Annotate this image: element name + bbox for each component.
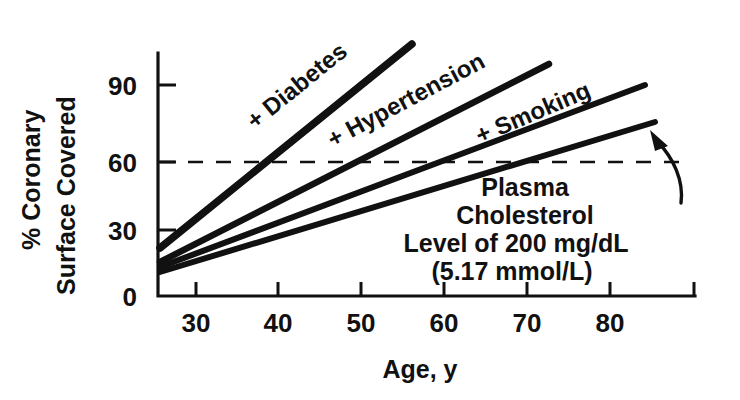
annotation-line-3: Level of 200 mg/dL bbox=[403, 229, 628, 257]
y-axis-title-line1: % Coronary bbox=[17, 110, 45, 250]
annotation-line-2: Cholesterol bbox=[456, 201, 594, 229]
coronary-surface-chart: % Coronary Surface Covered 90 60 30 0 bbox=[0, 0, 740, 400]
x-tick-label-70: 70 bbox=[513, 308, 542, 338]
y-axis-title-line2: Surface Covered bbox=[52, 96, 80, 295]
chart-svg: % Coronary Surface Covered 90 60 30 0 bbox=[0, 0, 740, 400]
y-tick-label-30: 30 bbox=[108, 216, 137, 246]
x-axis-title: Age, y bbox=[382, 355, 457, 383]
y-tick-label-60: 60 bbox=[108, 148, 137, 178]
y-axis-title: % Coronary Surface Covered bbox=[17, 96, 80, 295]
x-tick-label-60: 60 bbox=[430, 308, 459, 338]
y-tick-label-90: 90 bbox=[108, 71, 137, 101]
annotation-line-4: (5.17 mmol/L) bbox=[431, 257, 592, 285]
series-label-diabetes: + Diabetes bbox=[241, 37, 352, 134]
y-tick-labels: 90 60 30 0 bbox=[108, 71, 137, 312]
y-tick-label-0: 0 bbox=[123, 282, 137, 312]
annotation-line-1: Plasma bbox=[481, 173, 570, 201]
x-tick-label-50: 50 bbox=[347, 308, 376, 338]
x-tick-label-40: 40 bbox=[264, 308, 293, 338]
x-tick-label-80: 80 bbox=[596, 308, 625, 338]
annotation-arrow-icon bbox=[650, 130, 681, 203]
x-tick-label-30: 30 bbox=[182, 308, 211, 338]
x-tick-labels: 30 40 50 60 70 80 bbox=[182, 308, 625, 338]
y-axis-ticks bbox=[158, 85, 176, 230]
